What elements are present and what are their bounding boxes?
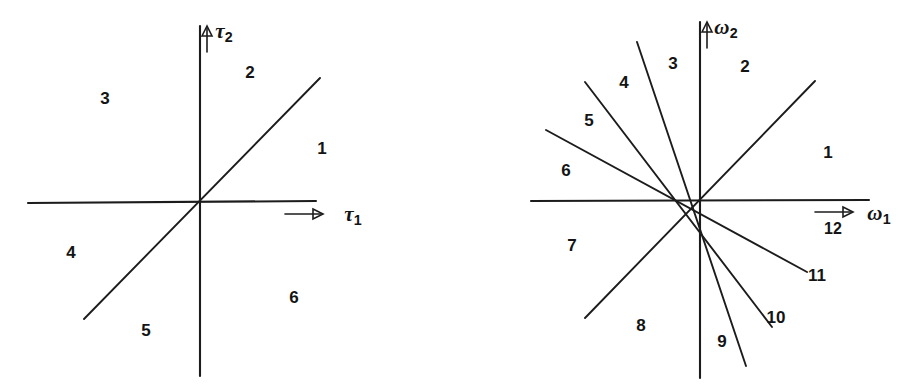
- omega-region-label-1: 1: [823, 144, 832, 161]
- panel-omega-plane: ω1 ω2 1 2 3 4 5 6 7 8 9 10 11 12: [451, 0, 902, 390]
- tau-region-label-2: 2: [245, 64, 254, 81]
- tau-plane-lines: [0, 0, 451, 390]
- tau-region-label-5: 5: [141, 322, 150, 339]
- tau-y-arrow-icon: [202, 26, 212, 52]
- omega-region-label-4: 4: [619, 74, 628, 91]
- omega-2-axis-label: ω2: [714, 17, 737, 41]
- omega-1-axis-label: ω1: [867, 203, 890, 227]
- tau-diagonal-45-line: [84, 78, 320, 319]
- omega-region-label-5: 5: [584, 112, 593, 129]
- tau-x-arrow-icon: [285, 209, 323, 219]
- omega-region-label-12: 12: [824, 221, 842, 237]
- tau-2-axis-label: τ2: [215, 21, 233, 45]
- omega-region-label-10: 10: [767, 309, 786, 326]
- tau-region-label-4: 4: [66, 244, 75, 261]
- omega-y-arrow-icon: [702, 22, 712, 48]
- panel-tau-plane: τ1 τ2 1 2 3 4 5 6: [0, 0, 451, 390]
- omega-region-label-9: 9: [717, 333, 726, 350]
- omega-ray-75-line: [637, 42, 746, 366]
- tau-region-label-6: 6: [289, 289, 298, 306]
- figure-root: τ1 τ2 1 2 3 4 5 6: [0, 0, 902, 390]
- omega-region-label-7: 7: [567, 237, 576, 254]
- omega-region-label-8: 8: [636, 317, 645, 334]
- tau-1-axis-label: τ1: [344, 204, 362, 228]
- omega-region-label-3: 3: [668, 55, 677, 72]
- omega-region-label-6: 6: [561, 162, 570, 179]
- omega-region-label-2: 2: [740, 58, 749, 75]
- omega-x-arrow-icon: [815, 207, 853, 217]
- omega-region-label-11: 11: [808, 267, 826, 284]
- tau-horizontal-axis: [28, 201, 316, 203]
- tau-region-label-3: 3: [100, 90, 109, 107]
- tau-region-label-1: 1: [317, 140, 326, 157]
